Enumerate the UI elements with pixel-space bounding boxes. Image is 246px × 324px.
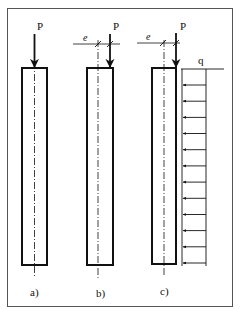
load-p-label: P bbox=[37, 20, 43, 32]
column-b-body bbox=[87, 68, 113, 265]
distributed-load-label: q bbox=[198, 54, 204, 66]
column-c-caption: c) bbox=[160, 285, 169, 298]
column-b: e P b) bbox=[73, 20, 120, 300]
load-p-label: P bbox=[113, 20, 119, 32]
column-loading-diagram: P a) e P b) e P q c) bbox=[0, 0, 246, 324]
distributed-load-q: q bbox=[181, 54, 224, 266]
column-b-caption: b) bbox=[96, 287, 106, 300]
eccentricity-label: e bbox=[146, 31, 151, 42]
column-c: e P q c) bbox=[137, 20, 224, 298]
column-a-caption: a) bbox=[30, 286, 39, 299]
load-arrows bbox=[183, 85, 206, 263]
eccentricity-label: e bbox=[83, 32, 88, 43]
load-p-label: P bbox=[180, 20, 186, 32]
column-a: P a) bbox=[22, 20, 47, 299]
